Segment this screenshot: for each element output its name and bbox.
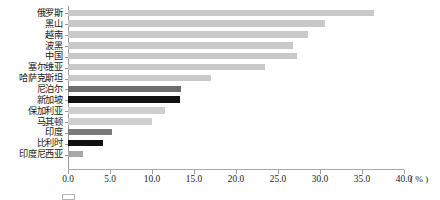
bar bbox=[68, 140, 103, 146]
legend-swatch bbox=[62, 194, 75, 200]
table-row bbox=[68, 62, 404, 73]
bar bbox=[68, 10, 374, 16]
bar bbox=[68, 96, 180, 102]
x-axis-tick-labels: 0.05.010.015.020.025.030.035.040.0 bbox=[0, 174, 440, 188]
bar bbox=[68, 151, 83, 157]
y-axis-label: 保加利亚 bbox=[28, 106, 63, 117]
table-row bbox=[68, 19, 404, 30]
bar bbox=[68, 75, 211, 81]
x-axis-tick-label: 15.0 bbox=[186, 174, 202, 184]
y-axis-label: 比利时 bbox=[37, 138, 63, 149]
y-axis-label: 中国 bbox=[45, 51, 63, 62]
bar-chart: 俄罗斯黑山越南波黑中国塞尔维亚哈萨克斯坦尼泊尔新加坡保加利亚马其顿印度比利时印度… bbox=[0, 0, 440, 200]
table-row bbox=[68, 149, 404, 160]
x-axis-tick-label: 35.0 bbox=[354, 174, 370, 184]
x-axis-tick-label: 5.0 bbox=[104, 174, 116, 184]
table-row bbox=[68, 138, 404, 149]
table-row bbox=[68, 106, 404, 117]
y-axis-label: 哈萨克斯坦 bbox=[19, 73, 63, 84]
x-axis-tick-label: 10.0 bbox=[144, 174, 160, 184]
y-axis-label: 马其顿 bbox=[37, 117, 63, 128]
bar bbox=[68, 129, 112, 135]
y-axis-label: 塞尔维亚 bbox=[28, 62, 63, 73]
x-axis-tick-label: 30.0 bbox=[312, 174, 328, 184]
y-axis-label: 黑山 bbox=[45, 19, 63, 30]
x-axis-tick-label: 25.0 bbox=[270, 174, 286, 184]
bar bbox=[68, 31, 308, 37]
y-axis-label: 俄罗斯 bbox=[37, 8, 63, 19]
table-row bbox=[68, 73, 404, 84]
y-axis-labels: 俄罗斯黑山越南波黑中国塞尔维亚哈萨克斯坦尼泊尔新加坡保加利亚马其顿印度比利时印度… bbox=[0, 6, 66, 169]
x-axis-tick bbox=[68, 170, 69, 174]
x-axis-tick bbox=[362, 170, 363, 174]
table-row bbox=[68, 95, 404, 106]
y-axis-label: 越南 bbox=[45, 30, 63, 41]
bar bbox=[68, 107, 165, 113]
x-axis-tick bbox=[194, 170, 195, 174]
x-axis-tick-label: 0.0 bbox=[62, 174, 74, 184]
bar bbox=[68, 64, 265, 70]
bar bbox=[68, 118, 152, 124]
x-axis-tick-label: 20.0 bbox=[228, 174, 244, 184]
y-axis-label: 印度 bbox=[45, 127, 63, 138]
legend-fragment bbox=[62, 194, 212, 200]
bar-rows bbox=[68, 6, 404, 169]
table-row bbox=[68, 84, 404, 95]
table-row bbox=[68, 8, 404, 19]
x-axis-unit-label: ( % ) bbox=[410, 174, 428, 184]
table-row bbox=[68, 30, 404, 41]
table-row bbox=[68, 127, 404, 138]
x-axis-tick bbox=[152, 170, 153, 174]
table-row bbox=[68, 117, 404, 128]
y-axis-label: 波黑 bbox=[45, 41, 63, 52]
x-axis-tick bbox=[278, 170, 279, 174]
x-axis-tick bbox=[404, 170, 405, 174]
y-axis-label: 印度尼西亚 bbox=[19, 149, 63, 160]
table-row bbox=[68, 51, 404, 62]
bar bbox=[68, 20, 325, 26]
y-axis-label: 新加坡 bbox=[37, 95, 63, 106]
bar bbox=[68, 42, 293, 48]
y-axis-label: 尼泊尔 bbox=[37, 84, 63, 95]
x-axis-tick bbox=[110, 170, 111, 174]
plot-area bbox=[68, 6, 404, 169]
table-row bbox=[68, 41, 404, 52]
x-axis-tick bbox=[236, 170, 237, 174]
x-axis-tick bbox=[320, 170, 321, 174]
bar bbox=[68, 53, 297, 59]
bar bbox=[68, 86, 181, 92]
